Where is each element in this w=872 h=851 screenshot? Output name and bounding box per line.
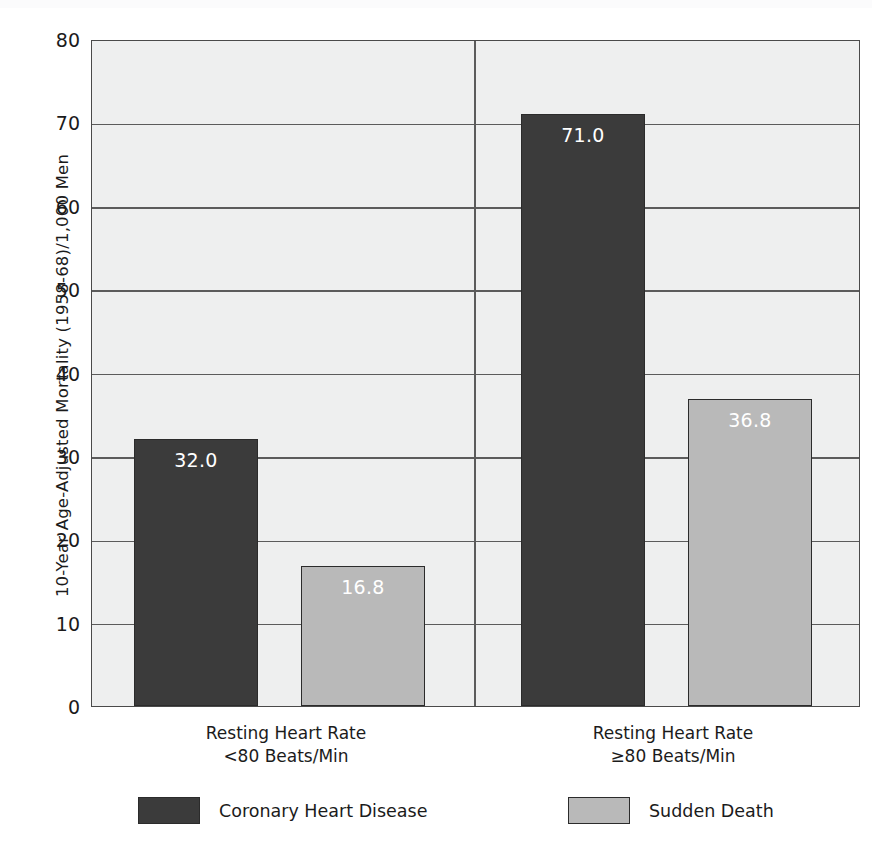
category-label-line-2: <80 Beats/Min — [126, 745, 446, 768]
y-axis-tick-label: 30 — [20, 446, 80, 468]
category-label-line-2: ≥80 Beats/Min — [513, 745, 833, 768]
bar: 36.8 — [688, 399, 812, 706]
group-divider-line — [474, 41, 476, 706]
gridline — [92, 374, 859, 376]
bar: 32.0 — [134, 439, 258, 706]
y-axis-tick-label: 50 — [20, 279, 80, 301]
legend-swatch — [568, 797, 630, 824]
bar-value-label: 36.8 — [689, 409, 811, 431]
y-axis-tick-label: 70 — [20, 112, 80, 134]
bar: 71.0 — [521, 114, 645, 706]
gridline — [92, 207, 859, 209]
category-label-line-1: Resting Heart Rate — [593, 723, 753, 743]
legend-label: Coronary Heart Disease — [219, 801, 427, 821]
bar-chart-figure: 10-Year Age-Adjusted Mortality (1958-68)… — [0, 0, 872, 851]
bar-value-label: 71.0 — [522, 124, 644, 146]
legend-label: Sudden Death — [649, 801, 774, 821]
category-label: Resting Heart Rate<80 Beats/Min — [126, 722, 446, 767]
chart-legend: Coronary Heart DiseaseSudden Death — [0, 797, 872, 837]
y-axis-tick-label: 40 — [20, 363, 80, 385]
bar-value-label: 16.8 — [302, 576, 424, 598]
y-axis-tick-label: 0 — [20, 696, 80, 718]
y-axis-tick-label: 20 — [20, 529, 80, 551]
y-axis-tick-label: 80 — [20, 29, 80, 51]
gridline — [92, 290, 859, 292]
bar-value-label: 32.0 — [135, 449, 257, 471]
y-axis-tick-label: 60 — [20, 196, 80, 218]
legend-item: Coronary Heart Disease — [138, 797, 427, 824]
gridline — [92, 124, 859, 126]
category-label: Resting Heart Rate≥80 Beats/Min — [513, 722, 833, 767]
category-label-line-1: Resting Heart Rate — [206, 723, 366, 743]
y-axis-tick-labels: 01020304050607080 — [16, 40, 80, 707]
plot-area: 32.016.871.036.8 — [91, 40, 860, 707]
legend-item: Sudden Death — [568, 797, 774, 824]
bar: 16.8 — [301, 566, 425, 706]
legend-swatch — [138, 797, 200, 824]
y-axis-tick-label: 10 — [20, 613, 80, 635]
